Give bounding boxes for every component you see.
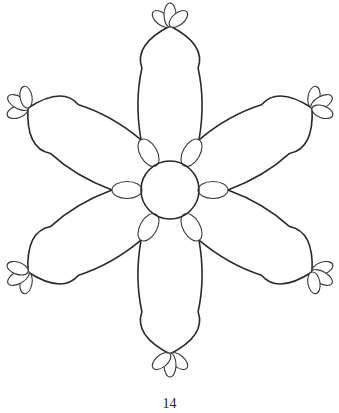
inner-oval xyxy=(198,182,228,199)
inner-oval xyxy=(134,136,164,170)
flower-center xyxy=(141,161,199,219)
inner-oval xyxy=(177,136,207,170)
inner-ovals xyxy=(112,136,228,245)
petal xyxy=(199,96,312,190)
petal xyxy=(28,96,141,190)
petal xyxy=(199,190,312,284)
petal-tip-leaflets xyxy=(5,3,335,377)
petals xyxy=(28,26,312,354)
petal xyxy=(138,240,202,354)
inner-oval xyxy=(112,182,142,199)
petal xyxy=(138,26,202,140)
page-number: 14 xyxy=(0,396,339,412)
inner-oval xyxy=(134,210,164,244)
petal xyxy=(28,190,141,284)
inner-oval xyxy=(177,210,207,244)
flower-drawing xyxy=(0,0,339,413)
